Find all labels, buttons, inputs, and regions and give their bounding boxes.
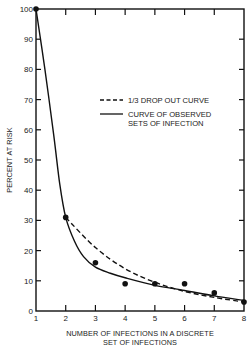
y-tick-label: 30 [24, 216, 33, 225]
y-tick-label: 70 [24, 96, 33, 105]
drop-out-curve-path [66, 217, 244, 302]
data-point [122, 281, 128, 287]
legend-label-observed-line1: CURVE OF OBSERVED [128, 110, 212, 119]
y-axis-title: PERCENT AT RISK [5, 127, 14, 193]
y-tick-label: 10 [24, 277, 33, 286]
x-tick-label: 7 [212, 314, 217, 323]
legend-label-observed-line2: SETS OF INFECTION [128, 119, 204, 128]
observed-curve-line [36, 9, 244, 300]
chart-canvas: 0102030405060708090100 12345678 1/3 DROP… [0, 0, 250, 349]
y-tick-label: 20 [24, 247, 33, 256]
data-point [182, 281, 188, 287]
x-tick-label: 6 [182, 314, 187, 323]
y-tick-label: 100 [20, 5, 34, 14]
x-axis-title-line2: SET OF INFECTIONS [103, 338, 177, 347]
x-axis-title-line1: NUMBER OF INFECTIONS IN A DISCRETE [66, 329, 214, 338]
y-tick-label: 80 [24, 65, 33, 74]
x-tick-label: 3 [93, 314, 98, 323]
x-axis-ticks: 12345678 [34, 9, 247, 323]
x-tick-label: 8 [242, 314, 247, 323]
observed-data-points [33, 6, 247, 305]
x-tick-label: 1 [34, 314, 39, 323]
plot-border [36, 9, 244, 311]
x-tick-label: 5 [153, 314, 158, 323]
plot-frame [36, 9, 244, 311]
y-tick-label: 90 [24, 35, 33, 44]
data-point [33, 6, 39, 12]
y-tick-label: 40 [24, 186, 33, 195]
x-tick-label: 2 [63, 314, 68, 323]
observed-curve-path [36, 9, 244, 300]
y-tick-label: 60 [24, 126, 33, 135]
data-point [241, 299, 247, 305]
data-point [63, 215, 69, 221]
legend-label-drop-out: 1/3 DROP OUT CURVE [128, 96, 209, 105]
y-tick-label: 50 [24, 156, 33, 165]
data-point [152, 281, 158, 287]
y-axis-ticks: 0102030405060708090100 [20, 5, 244, 316]
legend: 1/3 DROP OUT CURVE CURVE OF OBSERVED SET… [100, 96, 212, 128]
x-tick-label: 4 [123, 314, 128, 323]
data-point [211, 290, 217, 296]
drop-out-curve-line [66, 217, 244, 302]
data-point [93, 260, 99, 266]
